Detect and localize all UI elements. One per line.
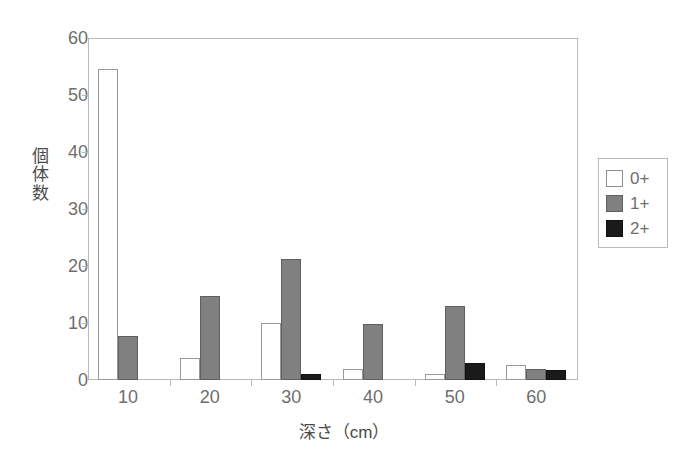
y-axis: 0102030405060 <box>0 0 88 454</box>
y-axis-title-char: 数 <box>28 185 52 203</box>
y-axis-title-char: 体 <box>28 166 52 184</box>
x-tick-mark <box>333 380 334 386</box>
bar-30cm-1+ <box>281 259 301 380</box>
bar-20cm-0+ <box>180 358 200 380</box>
bar-chart-figure: 0102030405060 個体数 深さ（cm） 0+1+2+ 10203040… <box>0 0 688 454</box>
bar-10cm-1+ <box>118 336 138 380</box>
legend-item-0+: 0+ <box>606 166 667 191</box>
legend-label: 0+ <box>630 170 649 187</box>
y-tick-label: 60 <box>54 29 88 47</box>
legend-item-1+: 1+ <box>606 191 667 216</box>
bar-30cm-0+ <box>261 323 281 380</box>
y-axis-title-char: 個 <box>28 148 52 166</box>
bar-50cm-2+ <box>465 363 485 380</box>
bar-20cm-1+ <box>200 296 220 380</box>
bar-60cm-0+ <box>506 365 526 380</box>
bars-layer <box>88 38 578 380</box>
bar-60cm-1+ <box>526 369 546 380</box>
y-tick-label: 0 <box>54 371 88 389</box>
bar-40cm-0+ <box>343 369 363 380</box>
bar-10cm-0+ <box>98 69 118 380</box>
x-tick-mark <box>251 380 252 386</box>
legend-label: 1+ <box>630 195 649 212</box>
x-tick-label: 60 <box>506 388 566 406</box>
x-tick-mark <box>170 380 171 386</box>
x-tick-label: 40 <box>343 388 403 406</box>
legend-swatch-2+ <box>606 220 623 237</box>
x-tick-mark <box>415 380 416 386</box>
x-axis <box>88 380 578 390</box>
x-axis-title: 深さ（cm） <box>0 418 688 443</box>
bar-50cm-1+ <box>445 306 465 380</box>
bar-60cm-2+ <box>546 370 566 380</box>
x-tick-label: 20 <box>180 388 240 406</box>
x-tick-label: 50 <box>425 388 485 406</box>
legend-swatch-0+ <box>606 170 623 187</box>
x-tick-label: 10 <box>98 388 158 406</box>
x-tick-label: 30 <box>261 388 321 406</box>
legend-item-2+: 2+ <box>606 216 667 241</box>
legend-swatch-1+ <box>606 195 623 212</box>
chart-legend: 0+1+2+ <box>598 158 668 248</box>
bar-40cm-1+ <box>363 324 383 380</box>
legend-label: 2+ <box>630 220 649 237</box>
y-axis-title: 個体数 <box>28 148 52 203</box>
x-tick-mark <box>496 380 497 386</box>
